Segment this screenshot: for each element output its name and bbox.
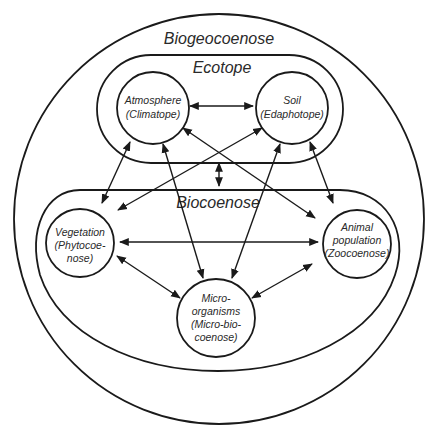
biogeocoenose-diagram: Biogeocoenose Ecotope Biocoenose Atmosph… xyxy=(0,0,432,434)
vegetation-sublabel-2: nose) xyxy=(67,252,93,264)
soil-sublabel: (Edaphotope) xyxy=(260,108,324,120)
micro-sublabel-1: organisms xyxy=(192,305,241,317)
arrow-soil-micro xyxy=(232,144,280,278)
node-micro-organisms: Micro- organisms (Micro-bio- coenose) xyxy=(177,279,255,357)
atmosphere-label: Atmosphere xyxy=(124,94,182,106)
animal-sublabel-1: population xyxy=(332,234,382,246)
node-atmosphere: Atmosphere (Climatope) xyxy=(117,72,189,144)
arrow-animal-micro xyxy=(252,264,312,298)
biocoenose-boundary xyxy=(36,190,399,371)
micro-label: Micro- xyxy=(201,292,231,304)
vegetation-sublabel-1: (Phytocoe- xyxy=(55,239,106,251)
animal-sublabel-2: (Zoocoenose) xyxy=(325,247,390,259)
arrow-vegetation-micro xyxy=(117,256,180,298)
node-soil: Soil (Edaphotope) xyxy=(256,72,328,144)
ecotope-label: Ecotope xyxy=(193,59,252,76)
micro-sublabel-3: coenose) xyxy=(194,331,237,343)
biogeocoenose-label: Biogeocoenose xyxy=(164,30,274,47)
arrow-atmosphere-micro xyxy=(163,144,203,278)
biocoenose-region: Biocoenose xyxy=(36,190,399,371)
animal-label: Animal xyxy=(340,221,374,233)
biocoenose-label: Biocoenose xyxy=(176,194,260,211)
node-vegetation: Vegetation (Phytocoe- nose) xyxy=(46,209,114,277)
micro-sublabel-2: (Micro-bio- xyxy=(191,318,242,330)
node-animal-population: Animal population (Zoocoenose) xyxy=(323,210,391,278)
vegetation-label: Vegetation xyxy=(55,226,105,238)
soil-label: Soil xyxy=(283,94,301,106)
atmosphere-sublabel: (Climatope) xyxy=(126,108,180,120)
